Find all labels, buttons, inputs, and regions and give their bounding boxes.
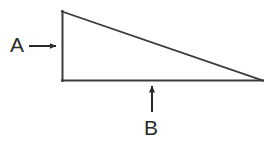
annotation-a: A — [10, 33, 56, 56]
annotation-b: B — [144, 86, 158, 139]
diagram-canvas: A B — [0, 0, 273, 142]
right-triangle-shape — [62, 11, 263, 81]
triangle-hypotenuse-side — [62, 12, 263, 81]
annotation-a-label: A — [10, 33, 24, 56]
annotation-b-label: B — [144, 116, 158, 139]
triangle-diagram-svg: A B — [0, 0, 273, 142]
